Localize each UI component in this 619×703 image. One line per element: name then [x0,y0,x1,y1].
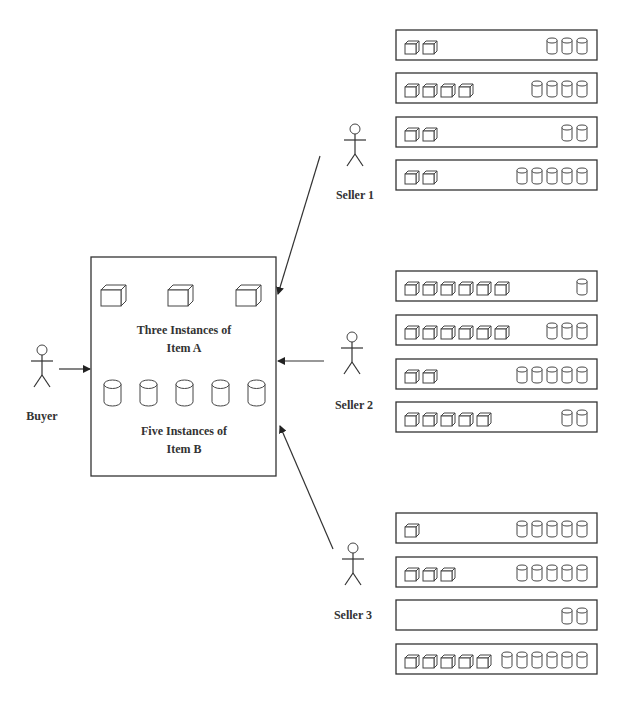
bundle-offer [396,271,597,301]
cube-icon [423,568,437,581]
bundle-offer [396,117,597,147]
cube-icon [495,282,509,295]
cube-icon [459,282,473,295]
seller-2-stick-figure-icon [341,332,363,374]
seller-1-stick-figure-icon [344,124,366,166]
bundle-offer [396,73,597,103]
cube-icon [441,84,455,97]
cylinder-icon [517,521,527,537]
cube-icon [405,370,419,383]
cylinder-icon [502,652,512,668]
cube-icon [405,568,419,581]
cube-icon [405,655,419,668]
cylinder-icon [562,565,572,581]
cube-icon [459,326,473,339]
cube-icon [477,282,491,295]
cylinder-icon [577,608,587,624]
auction-diagram: Buyer Three Instances of Item A Five Ins… [0,0,619,703]
seller-1-label: Seller 1 [336,188,374,202]
cylinder-icon [532,521,542,537]
cube-icon [477,326,491,339]
bundle-offer [396,600,597,630]
cylinder-icon [577,565,587,581]
cylinder-icon [562,125,572,141]
bundle-offer [396,30,597,60]
cylinder-icon [577,323,587,339]
cube-icon [441,568,455,581]
buyer-figure [31,345,53,387]
cube-icon [441,655,455,668]
cube-icon [459,413,473,426]
cube-icon [236,285,261,306]
cylinder-icon [562,521,572,537]
cylinder-icon [577,81,587,97]
cylinder-icon [577,279,587,295]
cylinder-icon [547,168,557,184]
cylinder-icon [562,38,572,54]
cylinder-icon [562,410,572,426]
cube-icon [459,655,473,668]
cube-icon [423,84,437,97]
cylinder-icon [547,38,557,54]
buyer-stick-figure-icon [31,345,53,387]
cube-icon [405,128,419,141]
cylinder-icon [562,608,572,624]
cylinder-icon [577,125,587,141]
cylinder-icon [547,323,557,339]
bundle-offer [396,644,597,674]
bundle-offer [396,402,597,432]
cylinder-icon [577,168,587,184]
item-a-caption-line2: Item A [167,341,202,355]
cube-icon [423,655,437,668]
cylinder-icon [577,410,587,426]
cylinder-icon [577,38,587,54]
cube-icon [405,171,419,184]
cube-icon [441,282,455,295]
cube-icon [405,524,419,537]
cylinder-icon [547,652,557,668]
cube-icon [423,282,437,295]
cube-icon [495,326,509,339]
cylinder-icon [248,380,265,406]
cylinder-icon [517,168,527,184]
cube-icon [477,655,491,668]
cylinder-icon [562,652,572,668]
cube-icon [168,285,193,306]
cube-icon [405,41,419,54]
cylinder-icon [517,367,527,383]
cylinder-icon [532,367,542,383]
cube-icon [405,282,419,295]
cylinder-icon [547,565,557,581]
cylinder-icon [532,168,542,184]
bundle-offer [396,160,597,190]
seller-3-arrow [280,426,333,549]
cylinder-icon [212,380,229,406]
item-b-caption-line1: Five Instances of [141,424,228,438]
item-a-caption-line1: Three Instances of [137,323,232,337]
buyer-label: Buyer [26,409,58,423]
cylinder-icon [104,380,121,406]
cube-icon [441,326,455,339]
cube-icon [101,285,126,306]
seller-3-bundles [396,513,597,674]
cylinder-icon [532,565,542,581]
cube-icon [423,41,437,54]
sellers-group [341,30,597,674]
cube-icon [423,370,437,383]
cylinder-icon [547,521,557,537]
cube-icon [459,84,473,97]
cube-icon [405,413,419,426]
cylinder-icon [562,323,572,339]
cube-icon [477,413,491,426]
seller-1-arrow [278,156,320,294]
seller-1-bundles [396,30,597,190]
cylinder-icon [547,81,557,97]
cylinder-icon [532,652,542,668]
cylinder-icon [517,565,527,581]
cube-icon [423,128,437,141]
seller-2-label: Seller 2 [335,398,373,412]
cube-icon [441,413,455,426]
cylinder-icon [140,380,157,406]
bundle-offer [396,359,597,389]
cylinder-icon [532,81,542,97]
